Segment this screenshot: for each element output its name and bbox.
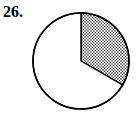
- pie-chart: [0, 0, 137, 118]
